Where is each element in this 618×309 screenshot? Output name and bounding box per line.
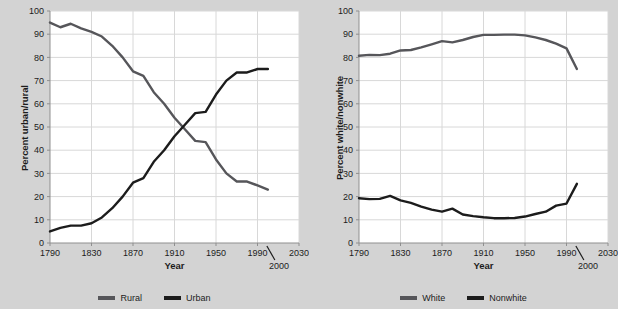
- svg-text:50: 50: [34, 122, 44, 132]
- svg-text:60: 60: [34, 99, 44, 109]
- legend-swatch-nonwhite: [467, 296, 484, 300]
- svg-text:10: 10: [34, 215, 44, 225]
- svg-text:70: 70: [34, 76, 44, 86]
- svg-text:1790: 1790: [349, 248, 369, 258]
- svg-text:20: 20: [34, 192, 44, 202]
- legend-right: White Nonwhite: [309, 293, 618, 303]
- svg-text:90: 90: [34, 29, 44, 39]
- legend-item-urban[interactable]: Urban: [164, 293, 211, 303]
- svg-text:40: 40: [34, 145, 44, 155]
- svg-text:60: 60: [343, 99, 353, 109]
- svg-text:2030: 2030: [289, 248, 309, 258]
- svg-text:0: 0: [39, 238, 44, 248]
- legend-swatch-white: [400, 296, 417, 300]
- svg-text:1950: 1950: [206, 248, 226, 258]
- svg-text:80: 80: [34, 53, 44, 63]
- svg-text:1870: 1870: [123, 248, 143, 258]
- legend-swatch-urban: [164, 296, 181, 300]
- legend-label-white: White: [422, 293, 445, 303]
- svg-text:1870: 1870: [432, 248, 452, 258]
- svg-text:30: 30: [34, 169, 44, 179]
- svg-text:40: 40: [343, 145, 353, 155]
- legend-label-nonwhite: Nonwhite: [489, 293, 527, 303]
- x-axis-label-left: Year: [135, 260, 215, 271]
- svg-text:1790: 1790: [40, 248, 60, 258]
- svg-text:80: 80: [343, 53, 353, 63]
- legend-item-rural[interactable]: Rural: [98, 293, 142, 303]
- svg-text:10: 10: [343, 215, 353, 225]
- svg-text:30: 30: [343, 169, 353, 179]
- legend-left: Rural Urban: [0, 293, 309, 303]
- callout-2000-left: 2000: [269, 261, 289, 271]
- legend-label-urban: Urban: [186, 293, 211, 303]
- svg-text:1830: 1830: [390, 248, 410, 258]
- callout-2000-right: 2000: [578, 261, 598, 271]
- svg-text:50: 50: [343, 122, 353, 132]
- svg-text:1950: 1950: [515, 248, 535, 258]
- svg-text:1990: 1990: [556, 248, 576, 258]
- svg-text:1990: 1990: [247, 248, 267, 258]
- figure-root: Percent urban/rural 01020304050607080901…: [0, 0, 618, 309]
- svg-text:90: 90: [343, 29, 353, 39]
- legend-label-rural: Rural: [120, 293, 142, 303]
- chart-panel-white-nonwhite: Percent white/nonwhite 01020304050607080…: [309, 0, 618, 309]
- legend-item-white[interactable]: White: [400, 293, 445, 303]
- svg-text:1910: 1910: [164, 248, 184, 258]
- svg-text:1830: 1830: [81, 248, 101, 258]
- svg-text:1910: 1910: [473, 248, 493, 258]
- x-axis-label-right: Year: [444, 260, 524, 271]
- svg-text:0: 0: [348, 238, 353, 248]
- legend-item-nonwhite[interactable]: Nonwhite: [467, 293, 527, 303]
- legend-swatch-rural: [98, 296, 115, 300]
- svg-text:2030: 2030: [598, 248, 618, 258]
- svg-text:70: 70: [343, 76, 353, 86]
- chart-panel-urban-rural: Percent urban/rural 01020304050607080901…: [0, 0, 309, 309]
- svg-text:100: 100: [29, 6, 44, 16]
- svg-text:20: 20: [343, 192, 353, 202]
- svg-text:100: 100: [338, 6, 353, 16]
